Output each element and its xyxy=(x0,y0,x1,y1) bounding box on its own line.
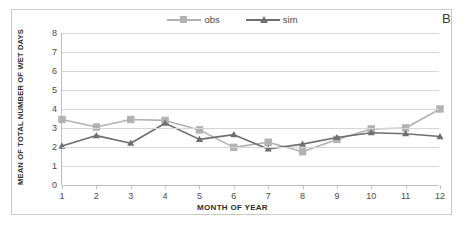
x-tick-mark xyxy=(131,185,132,189)
x-tick-label: 10 xyxy=(366,191,376,201)
data-point-sim-6[interactable] xyxy=(230,131,237,137)
y-tick-label: 7 xyxy=(52,47,57,57)
x-tick-mark xyxy=(371,185,372,189)
x-tick-label: 9 xyxy=(334,191,339,201)
x-tick-label: 6 xyxy=(231,191,236,201)
y-tick-label: 0 xyxy=(52,180,57,190)
gridline-y-0: 0 xyxy=(62,185,439,186)
gridline-y-4: 4 xyxy=(62,109,439,110)
x-tick-label: 3 xyxy=(128,191,133,201)
data-point-sim-2[interactable] xyxy=(93,132,100,138)
data-point-obs-1[interactable] xyxy=(59,116,65,122)
wet-days-line-chart: B obssim MEAN OF TOTAL NUMBER OF WET DAY… xyxy=(0,0,465,231)
y-tick-label: 1 xyxy=(52,161,57,171)
gridline-y-3: 3 xyxy=(62,128,439,129)
x-tick-label: 12 xyxy=(435,191,445,201)
data-point-obs-3[interactable] xyxy=(128,116,134,122)
x-tick-mark xyxy=(406,185,407,189)
x-tick-label: 5 xyxy=(197,191,202,201)
x-axis-title: MONTH OF YEAR xyxy=(0,203,465,212)
x-tick-label: 2 xyxy=(94,191,99,201)
y-tick-label: 5 xyxy=(52,85,57,95)
x-tick-mark xyxy=(440,185,441,189)
x-tick-label: 8 xyxy=(300,191,305,201)
y-axis-title: MEAN OF TOTAL NUMBER OF WET DAYS xyxy=(16,35,27,185)
data-point-obs-7[interactable] xyxy=(265,139,271,145)
gridline-y-2: 2 xyxy=(62,147,439,148)
x-tick-label: 4 xyxy=(163,191,168,201)
x-tick-mark xyxy=(337,185,338,189)
y-tick-label: 8 xyxy=(52,28,57,38)
gridline-y-1: 1 xyxy=(62,166,439,167)
x-tick-mark xyxy=(165,185,166,189)
gridline-y-8: 8 xyxy=(62,33,439,34)
x-tick-mark xyxy=(199,185,200,189)
y-tick-label: 6 xyxy=(52,66,57,76)
y-tick-label: 4 xyxy=(52,104,57,114)
plot-area: 012345678123456789101112 xyxy=(61,33,439,185)
x-tick-mark xyxy=(303,185,304,189)
y-tick-label: 3 xyxy=(52,123,57,133)
x-tick-mark xyxy=(234,185,235,189)
x-tick-label: 1 xyxy=(59,191,64,201)
x-tick-mark xyxy=(62,185,63,189)
gridline-y-6: 6 xyxy=(62,71,439,72)
gridline-y-5: 5 xyxy=(62,90,439,91)
x-tick-mark xyxy=(96,185,97,189)
x-tick-mark xyxy=(268,185,269,189)
data-point-obs-8[interactable] xyxy=(299,149,305,155)
gridline-y-7: 7 xyxy=(62,52,439,53)
y-tick-label: 2 xyxy=(52,142,57,152)
x-tick-label: 11 xyxy=(401,191,410,201)
panel-letter-label: B xyxy=(442,11,451,26)
series-line-obs xyxy=(62,109,440,152)
x-tick-label: 7 xyxy=(266,191,271,201)
